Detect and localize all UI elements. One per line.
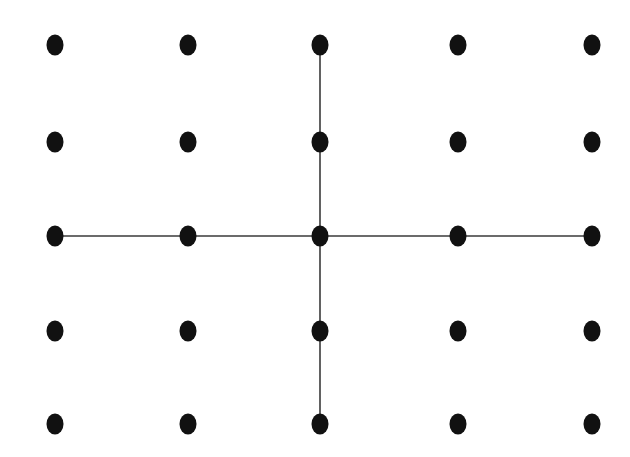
grid-node-r3c4 xyxy=(450,226,467,247)
grid-node-r5c5 xyxy=(584,414,601,435)
grid-node-r2c1 xyxy=(47,132,64,153)
grid-node-r1c1 xyxy=(47,35,64,56)
grid-node-r4c4 xyxy=(450,321,467,342)
grid-node-r4c3 xyxy=(312,321,329,342)
grid-node-r2c2 xyxy=(180,132,197,153)
grid-node-r2c3 xyxy=(312,132,329,153)
grid-node-r1c5 xyxy=(584,35,601,56)
grid-node-r5c3 xyxy=(312,414,329,435)
lattice-cross-svg xyxy=(0,0,630,457)
grid-node-r4c5 xyxy=(584,321,601,342)
grid-node-r2c5 xyxy=(584,132,601,153)
grid-node-r4c2 xyxy=(180,321,197,342)
grid-node-r5c4 xyxy=(450,414,467,435)
grid-node-r1c3 xyxy=(312,35,329,56)
grid-node-r3c5 xyxy=(584,226,601,247)
grid-node-r3c2 xyxy=(180,226,197,247)
grid-node-r2c4 xyxy=(450,132,467,153)
grid-node-r3c3 xyxy=(312,226,329,247)
grid-node-r5c1 xyxy=(47,414,64,435)
grid-node-r5c2 xyxy=(180,414,197,435)
diagram-canvas xyxy=(0,0,630,457)
grid-node-r1c2 xyxy=(180,35,197,56)
grid-node-r3c1 xyxy=(47,226,64,247)
grid-node-r4c1 xyxy=(47,321,64,342)
grid-node-r1c4 xyxy=(450,35,467,56)
